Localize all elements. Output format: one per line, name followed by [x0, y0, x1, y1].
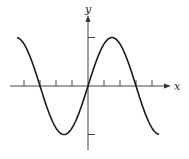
- x-axis-label: x: [174, 80, 181, 93]
- sine-plot: x y: [0, 0, 189, 159]
- y-axis-arrow-icon: [86, 15, 91, 22]
- x-axis: [10, 84, 171, 89]
- y-axis-label: y: [84, 3, 92, 16]
- x-axis-arrow-icon: [164, 84, 171, 89]
